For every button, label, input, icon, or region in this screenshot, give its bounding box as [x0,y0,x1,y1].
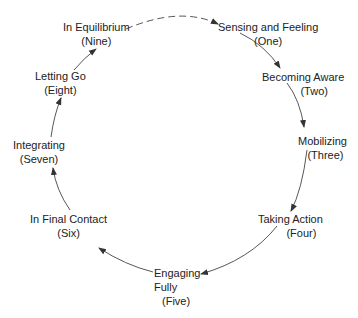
node-six-label: In Final Contact [30,212,107,226]
node-five-number: (Five) [154,294,201,308]
arrow-seven-to-eight [51,98,61,137]
node-four-number: (Four) [258,226,323,240]
arrow-nine-to-one [126,16,218,29]
node-eight: Letting Go (Eight) [35,69,86,97]
node-eight-number: (Eight) [35,83,86,97]
node-nine-number: (Nine) [63,34,130,48]
node-four: Taking Action (Four) [258,212,323,240]
node-nine: In Equilibrium (Nine) [63,20,130,48]
arrow-eight-to-nine [74,49,96,70]
arrow-six-to-seven [53,168,70,210]
node-one-number: (One) [218,34,318,48]
node-nine-label: In Equilibrium [63,20,130,34]
node-five: Engaging Fully (Five) [154,266,201,308]
node-six: In Final Contact (Six) [30,212,107,240]
node-two-label: Becoming Aware [262,70,344,84]
node-seven: Integrating (Seven) [13,138,65,166]
node-seven-label: Integrating [13,138,65,152]
node-six-number: (Six) [30,226,107,240]
node-three: Mobilizing (Three) [298,134,347,162]
node-three-label: Mobilizing [298,134,347,148]
cycle-diagram: Sensing and Feeling (One) Becoming Aware… [0,0,358,318]
node-seven-number: (Seven) [13,152,65,166]
node-four-label: Taking Action [258,212,323,226]
arrow-five-to-six [99,248,153,272]
node-five-label-line2: Fully [154,280,201,294]
node-one: Sensing and Feeling (One) [218,20,318,48]
node-two: Becoming Aware (Two) [262,70,344,98]
node-eight-label: Letting Go [35,69,86,83]
node-five-label-line1: Engaging [154,266,201,280]
node-three-number: (Three) [298,148,347,162]
node-one-label: Sensing and Feeling [218,20,318,34]
node-two-number: (Two) [262,84,344,98]
